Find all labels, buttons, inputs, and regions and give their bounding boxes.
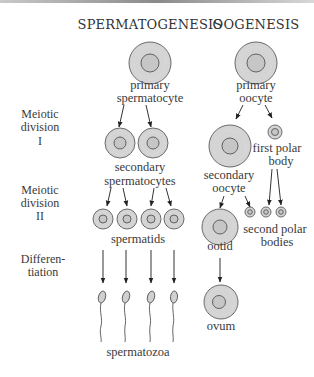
- secondary-oocyte-label-2: oocyte: [212, 181, 246, 195]
- oogenesis-title: OOGENESIS: [213, 17, 300, 32]
- svg-text:I: I: [38, 134, 42, 148]
- primary-oocyte-label-2: oocyte: [239, 91, 273, 105]
- stage-label-meiosis-1: Meiotic division I: [21, 107, 60, 148]
- spermatids-label: spermatids: [111, 232, 165, 246]
- svg-text:division: division: [21, 120, 60, 134]
- ootid-label: ootid: [207, 239, 233, 253]
- second-polar-bodies-label: second polar: [243, 222, 307, 236]
- primary-oocyte-label: primary: [236, 78, 276, 92]
- primary-spermatocyte-label: primary: [130, 78, 170, 92]
- first-polar-body-label: first polar: [253, 141, 303, 155]
- primary-spermatocyte-label-2: spermatocyte: [117, 91, 184, 105]
- second-polar-body-cell: [276, 207, 286, 217]
- spermatogenesis-title: SPERMATOGENESIS: [78, 17, 223, 32]
- secondary-spermatocytes-label-2: spermatocytes: [104, 174, 176, 188]
- spermatid-cell: [141, 209, 161, 229]
- secondary-oocyte-cell: [209, 125, 251, 167]
- arrow-icon: [220, 196, 224, 208]
- second-polar-bodies-label-2: bodies: [261, 235, 294, 249]
- spermatid-cell: [164, 209, 184, 229]
- arrow-icon: [146, 105, 151, 127]
- stage-label-meiosis-2: Meiotic division II: [21, 183, 60, 223]
- arrow-icon: [107, 188, 111, 206]
- svg-text:tiation: tiation: [28, 265, 59, 279]
- secondary-oocyte-label: secondary: [204, 168, 255, 182]
- ovum-label: ovum: [207, 319, 236, 333]
- spermatid-cell: [117, 209, 137, 229]
- svg-text:division: division: [21, 196, 60, 210]
- arrow-icon: [151, 188, 154, 206]
- second-polar-body-cell: [261, 207, 271, 217]
- arrow-icon: [119, 105, 124, 127]
- spermatozoon-icon: [97, 290, 107, 342]
- arrow-icon: [269, 169, 272, 205]
- spermatozoon-icon: [121, 290, 131, 342]
- gametogenesis-diagram: SPERMATOGENESIS OOGENESIS Meiotic divisi…: [0, 0, 314, 377]
- spermatozoon-icon: [146, 290, 156, 342]
- secondary-spermatocyte-cell: [105, 128, 135, 158]
- spermatozoa-label: spermatozoa: [106, 345, 170, 359]
- svg-text:II: II: [36, 209, 44, 223]
- svg-text:Meiotic: Meiotic: [21, 183, 58, 197]
- first-polar-body-label-2: body: [269, 154, 295, 168]
- second-polar-body-cell: [245, 207, 255, 217]
- arrow-icon: [245, 196, 250, 207]
- arrow-icon: [265, 105, 272, 118]
- secondary-spermatocytes-label: secondary: [115, 160, 166, 174]
- spermatozoon-icon: [170, 291, 178, 342]
- spermatid-cell: [93, 209, 113, 229]
- first-polar-body-cell: [268, 125, 282, 139]
- arrow-icon: [236, 105, 243, 119]
- secondary-spermatocyte-cell: [138, 128, 168, 158]
- arrow-icon: [123, 188, 127, 206]
- ovum-cell: [204, 285, 238, 319]
- arrow-icon: [166, 188, 171, 206]
- arrow-icon: [277, 169, 281, 205]
- stage-label-differentiation: Differen- tiation: [21, 252, 65, 279]
- svg-text:Meiotic: Meiotic: [21, 107, 58, 121]
- svg-text:Differen-: Differen-: [21, 252, 65, 266]
